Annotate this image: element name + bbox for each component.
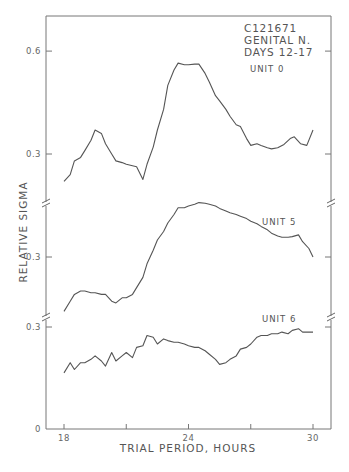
annotation-line-2: GENITAL N. bbox=[244, 34, 311, 46]
y-tick-label: 0.6 bbox=[26, 46, 41, 56]
unit-label: UNIT 6 bbox=[262, 314, 296, 324]
axis-ticks bbox=[46, 51, 331, 429]
y-tick-label: 0.3 bbox=[26, 149, 41, 159]
unit-label: UNIT 5 bbox=[262, 217, 296, 227]
unit-label: UNIT 0 bbox=[250, 64, 284, 74]
x-tick-label: 18 bbox=[58, 433, 70, 443]
series-line-unit-0 bbox=[64, 63, 313, 181]
annotation-line-1: C121671 bbox=[244, 22, 297, 34]
unit-labels: UNIT 0UNIT 5UNIT 6 bbox=[250, 64, 296, 324]
x-tick-label: 30 bbox=[307, 433, 319, 443]
line-chart: 1824300.60.30.30.30 UNIT 0UNIT 5UNIT 6 C… bbox=[0, 0, 349, 472]
axis-tick-labels: 1824300.60.30.30.30 bbox=[26, 46, 319, 443]
y-axis-title: RELATIVE SIGMA bbox=[17, 181, 29, 282]
y-tick-label: 0 bbox=[35, 424, 41, 434]
x-axis-title: TRIAL PERIOD, HOURS bbox=[119, 442, 256, 454]
annotation-line-3: DAYS 12-17 bbox=[244, 46, 313, 58]
series-line-unit-6 bbox=[64, 329, 313, 373]
y-tick-label: 0.3 bbox=[26, 322, 41, 332]
